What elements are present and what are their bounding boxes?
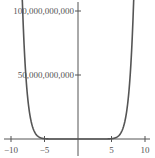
x-tick-label: −5: [40, 145, 50, 155]
x-tick-label: 5: [109, 145, 114, 155]
x-tick-label: −10: [4, 145, 19, 155]
x-tick-label: 10: [141, 145, 151, 155]
function-plot: −10−5510 50,000,000,000100,000,000,000: [0, 0, 155, 158]
